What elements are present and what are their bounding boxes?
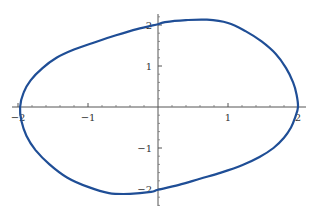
y-tick-label: 1 [146,61,152,72]
x-tick-label: 1 [225,112,231,123]
parametric-plot: −2−112−2−112 [0,0,314,214]
x-tick-label: −2 [11,112,26,123]
y-tick-label: −1 [137,143,152,154]
x-tick-label: −1 [81,112,96,123]
